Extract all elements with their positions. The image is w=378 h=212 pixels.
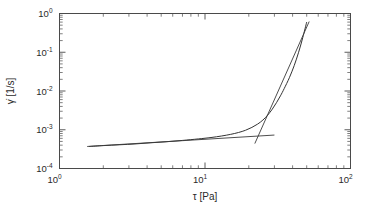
x-axis-label-text: τ [Pa]: [193, 191, 218, 202]
rheology-flow-curve-figure: 100101102 10010-110-210-310-4 τ [Pa] γ̇ …: [0, 0, 378, 212]
y-axis-label: γ̇ [1/s]: [5, 77, 16, 104]
x-axis-label: τ [Pa]: [193, 191, 218, 202]
y-axis-label-text: γ̇ [1/s]: [5, 77, 16, 104]
plot-canvas: 100101102 10010-110-210-310-4 τ [Pa] γ̇ …: [0, 0, 378, 212]
